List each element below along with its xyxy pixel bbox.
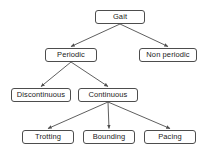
- node-bounding-label: Bounding: [93, 133, 126, 141]
- node-continuous[interactable]: Continuous: [78, 88, 138, 102]
- edge-group: [41, 24, 170, 129]
- node-non-periodic-label: Non periodic: [146, 51, 189, 59]
- node-pacing-label: Pacing: [158, 133, 182, 141]
- edge-gait-to-periodic: [71, 24, 120, 47]
- node-gait[interactable]: Gait: [95, 10, 145, 24]
- node-discontinuous[interactable]: Discontinuous: [11, 88, 71, 102]
- node-continuous-label: Continuous: [89, 91, 128, 99]
- node-trotting-label: Trotting: [35, 133, 61, 141]
- gait-taxonomy-diagram: Gait Periodic Non periodic Discontinuous…: [0, 0, 209, 154]
- node-pacing[interactable]: Pacing: [144, 130, 196, 144]
- edge-continuous-to-trotting: [48, 102, 108, 129]
- edge-periodic-to-discontinuous: [41, 62, 71, 87]
- node-periodic-label: Periodic: [57, 51, 85, 59]
- node-bounding[interactable]: Bounding: [83, 130, 135, 144]
- node-non-periodic[interactable]: Non periodic: [139, 48, 197, 62]
- node-periodic[interactable]: Periodic: [45, 48, 97, 62]
- node-gait-label: Gait: [113, 13, 127, 21]
- node-trotting[interactable]: Trotting: [22, 130, 74, 144]
- edge-continuous-to-bounding: [108, 102, 109, 129]
- edge-continuous-to-pacing: [108, 102, 170, 129]
- edge-gait-to-non-periodic: [120, 24, 168, 47]
- edge-periodic-to-continuous: [71, 62, 108, 87]
- node-discontinuous-label: Discontinuous: [17, 91, 65, 99]
